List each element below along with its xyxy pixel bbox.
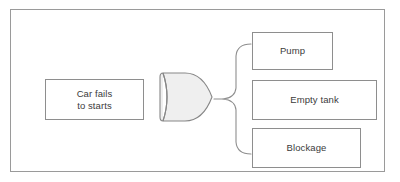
fault-tree-diagram: Car fails to starts Pump Empty tank Bloc…	[0, 0, 400, 182]
top-event-box[interactable]: Car fails to starts	[45, 79, 144, 120]
cause-label-pump: Pump	[280, 45, 305, 57]
diagram-frame: Car fails to starts Pump Empty tank Bloc…	[10, 9, 385, 172]
or-gate-icon[interactable]	[157, 68, 215, 126]
top-event-label: Car fails to starts	[77, 88, 113, 112]
cause-box-blockage[interactable]: Blockage	[252, 128, 361, 168]
cause-box-empty-tank[interactable]: Empty tank	[252, 80, 377, 120]
cause-label-blockage: Blockage	[287, 142, 327, 154]
curly-brace-connector-icon	[209, 40, 255, 158]
cause-box-pump[interactable]: Pump	[252, 32, 333, 70]
cause-label-empty-tank: Empty tank	[290, 94, 339, 106]
